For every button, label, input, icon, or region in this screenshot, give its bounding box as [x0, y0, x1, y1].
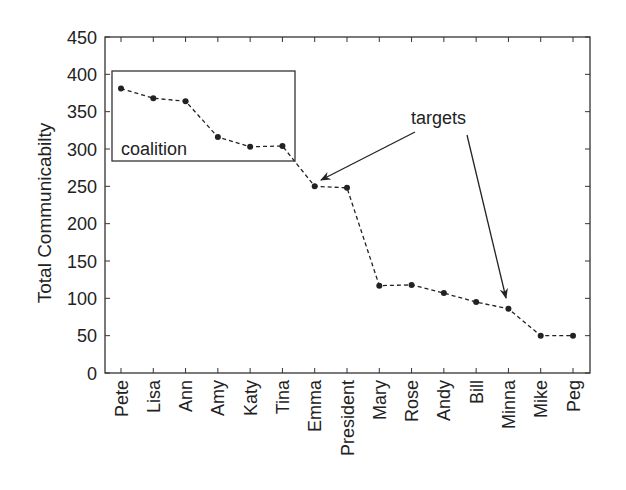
data-point	[215, 134, 221, 140]
data-series	[118, 86, 576, 339]
data-point	[473, 299, 479, 305]
data-point	[150, 95, 156, 101]
x-tick-label: Rose	[402, 380, 422, 422]
data-point	[538, 333, 544, 339]
coalition-label: coalition	[121, 139, 187, 159]
x-tick-label: Mary	[370, 380, 390, 420]
y-tick-label: 150	[67, 252, 97, 272]
data-point	[441, 290, 447, 296]
targets-label: targets	[411, 108, 466, 128]
x-tick-label: Minna	[499, 379, 519, 429]
x-tick-label: Peg	[564, 380, 584, 412]
data-point	[118, 86, 124, 92]
x-tick-label: Ann	[176, 380, 196, 412]
y-tick-label: 200	[67, 214, 97, 234]
y-tick-label: 250	[67, 177, 97, 197]
y-tick-label: 300	[67, 140, 97, 160]
data-point	[409, 282, 415, 288]
y-tick-label: 100	[67, 289, 97, 309]
x-axis-ticks: PeteLisaAnnAmyKatyTinaEmmaPresidentMaryR…	[112, 37, 584, 456]
y-tick-label: 400	[67, 65, 97, 85]
data-point	[279, 143, 285, 149]
x-tick-label: Bill	[467, 380, 487, 404]
x-tick-label: Tina	[273, 379, 293, 414]
y-tick-label: 350	[67, 102, 97, 122]
x-tick-label: Pete	[112, 380, 132, 417]
arrow-to-minna	[467, 135, 506, 298]
data-point	[505, 306, 511, 312]
x-tick-label: Mike	[531, 380, 551, 418]
y-tick-label: 450	[67, 28, 97, 48]
data-point	[376, 283, 382, 289]
data-point	[247, 144, 253, 150]
y-axis-title: Total Communicabilty	[34, 122, 55, 303]
plot-border	[105, 37, 590, 373]
series-line	[121, 89, 573, 336]
x-tick-label: Amy	[208, 380, 228, 416]
annotations: coalitiontargets	[112, 71, 506, 298]
data-point	[183, 98, 189, 104]
y-tick-label: 50	[77, 326, 97, 346]
data-point	[570, 333, 576, 339]
data-point	[344, 185, 350, 191]
data-point	[312, 183, 318, 189]
arrow-to-emma	[321, 132, 415, 180]
y-axis-ticks: 050100150200250300350400450	[67, 28, 590, 384]
y-tick-label: 0	[87, 364, 97, 384]
plot-frame	[105, 37, 590, 373]
x-tick-label: Lisa	[144, 379, 164, 413]
x-tick-label: President	[338, 380, 358, 456]
x-tick-label: Emma	[305, 379, 325, 432]
x-tick-label: Andy	[434, 380, 454, 421]
x-tick-label: Katy	[241, 380, 261, 416]
line-chart: 050100150200250300350400450 PeteLisaAnnA…	[0, 0, 626, 490]
